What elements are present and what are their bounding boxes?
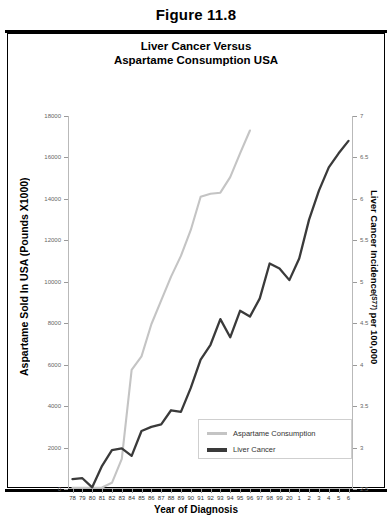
y-axis-right-title-tail: per 100,000: [369, 310, 380, 364]
x-axis-tick: [319, 489, 320, 493]
y-axis-right-tick-label: 3.5: [360, 403, 384, 409]
x-axis-tick: [280, 489, 281, 493]
figure-number: Figure 11.8: [0, 6, 392, 23]
x-axis-tick: [191, 489, 192, 493]
legend-label: Liver Cancer: [233, 444, 276, 456]
legend-swatch: [207, 432, 227, 435]
x-axis-tick: [329, 489, 330, 493]
y-axis-right-tick-label: 6.5: [360, 154, 384, 160]
x-axis-tick: [211, 489, 212, 493]
y-axis-right-tick: [353, 282, 357, 283]
y-axis-right-tick: [353, 323, 357, 324]
chart-legend: Aspartame ConsumptionLiver Cancer: [198, 419, 352, 459]
y-axis-right-tick: [353, 240, 357, 241]
legend-swatch: [207, 448, 227, 452]
y-axis-left-tick-label: 0: [21, 486, 61, 492]
x-axis-tick: [92, 489, 93, 493]
y-axis-right-tick-label: 7: [360, 113, 384, 119]
y-axis-left-tick-label: 2000: [21, 445, 61, 451]
y-axis-right-tick: [353, 406, 357, 407]
x-axis-tick: [171, 489, 172, 493]
chart-title: Liver Cancer Versus Aspartame Consumptio…: [8, 39, 384, 67]
y-axis-right-tick: [353, 365, 357, 366]
x-axis-tick: [112, 489, 113, 493]
x-axis-tick: [73, 489, 74, 493]
x-axis-tick: [151, 489, 152, 493]
x-axis-tick: [142, 489, 143, 493]
chart-panel: Liver Cancer Versus Aspartame Consumptio…: [7, 33, 385, 488]
y-axis-right-tick: [353, 157, 357, 158]
x-axis-tick: [230, 489, 231, 493]
y-axis-left-tick-label: 14000: [21, 196, 61, 202]
y-axis-right-tick-label: 6: [360, 196, 384, 202]
x-axis-tick: [299, 489, 300, 493]
x-axis-tick: [201, 489, 202, 493]
y-axis-left-tick: [64, 489, 68, 490]
x-axis-tick: [250, 489, 251, 493]
x-axis-tick: [309, 489, 310, 493]
y-axis-right-tick-label: 3: [360, 445, 384, 451]
y-axis-right-tick-label: 5.5: [360, 237, 384, 243]
x-axis-tick-label: 6: [342, 495, 356, 502]
y-axis-left-tick-label: 16000: [21, 154, 61, 160]
y-axis-right-tick-label: 4: [360, 362, 384, 368]
x-axis-tick: [161, 489, 162, 493]
x-axis-tick: [339, 489, 340, 493]
x-axis-tick: [260, 489, 261, 493]
x-axis-tick: [240, 489, 241, 493]
x-axis-tick: [349, 489, 350, 493]
x-axis-tick: [102, 489, 103, 493]
y-axis-right-tick-label: 5: [360, 279, 384, 285]
x-axis-tick: [220, 489, 221, 493]
y-axis-right-tick-label: 2.5: [360, 486, 384, 492]
y-axis-right-tick: [353, 116, 357, 117]
chart-title-line2: Aspartame Consumption USA: [8, 53, 384, 67]
y-axis-left-tick-label: 6000: [21, 362, 61, 368]
y-axis-right-title-sub: (S77): [371, 294, 378, 310]
y-axis-left-tick-label: 10000: [21, 279, 61, 285]
y-axis-left-tick-label: 4000: [21, 403, 61, 409]
x-axis-tick: [82, 489, 83, 493]
y-axis-left-tick-label: 12000: [21, 237, 61, 243]
chart-title-line1: Liver Cancer Versus: [8, 39, 384, 53]
y-axis-right-tick: [353, 489, 357, 490]
x-axis-tick: [132, 489, 133, 493]
x-axis-tick: [122, 489, 123, 493]
y-axis-right-tick: [353, 199, 357, 200]
x-axis-title: Year of Diagnosis: [8, 504, 384, 515]
x-axis-tick: [270, 489, 271, 493]
y-axis-left-tick-label: 8000: [21, 320, 61, 326]
legend-label: Aspartame Consumption: [233, 428, 316, 440]
x-axis-tick: [289, 489, 290, 493]
y-axis-left-tick-label: 18000: [21, 113, 61, 119]
y-axis-right-tick-label: 4.5: [360, 320, 384, 326]
y-axis-right-tick: [353, 448, 357, 449]
x-axis-tick: [181, 489, 182, 493]
